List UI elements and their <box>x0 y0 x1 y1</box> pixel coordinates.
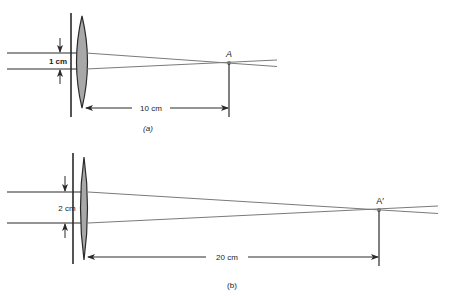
caption-b: (b) <box>227 281 237 290</box>
beam-width-label-a: 1 cm <box>49 57 67 66</box>
beam-width-label-b: 2 cm <box>58 204 76 213</box>
focal-distance-label-a: 10 cm <box>140 104 162 113</box>
ray-bottom-b <box>88 206 438 223</box>
figure-b: A′ 2 cm 20 cm (b) <box>7 153 438 290</box>
caption-a: (a) <box>143 124 153 133</box>
lens-a <box>77 16 88 108</box>
ray-top-b <box>88 192 438 214</box>
focal-point-label-b: A′ <box>376 196 384 206</box>
lens-b <box>81 157 88 260</box>
focal-point-label-a: A <box>225 49 232 59</box>
focal-distance-label-b: 20 cm <box>216 253 238 262</box>
figure-a: A 1 cm 10 cm (a) <box>7 13 277 133</box>
lens-diagram: A 1 cm 10 cm (a) A′ 2 cm 20 cm (b) <box>0 0 450 296</box>
